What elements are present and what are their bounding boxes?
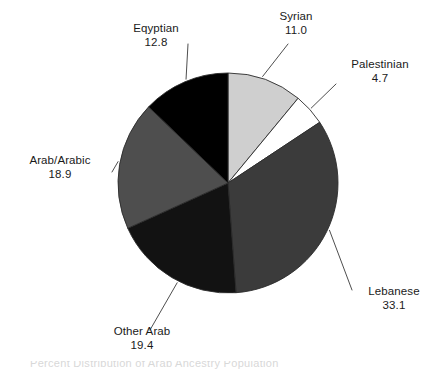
leader-line-other-arab bbox=[150, 283, 177, 330]
pie-label-lebanese-name: Lebanese bbox=[352, 285, 436, 299]
leader-line-syrian bbox=[263, 44, 288, 76]
pie-label-palestinian-name: Palestinian bbox=[330, 58, 430, 72]
pie-label-eqyptian: Eqyptian 12.8 bbox=[108, 22, 204, 49]
leader-line-palestinian bbox=[311, 84, 336, 108]
pie-label-arab-arabic-value: 18.9 bbox=[8, 168, 112, 182]
pie-label-other-arab-value: 19.4 bbox=[96, 339, 188, 353]
pie-label-palestinian: Palestinian 4.7 bbox=[330, 58, 430, 85]
pie-label-lebanese-value: 33.1 bbox=[352, 299, 436, 313]
pie-chart-figure: Eqyptian 12.8 Syrian 11.0 Palestinian 4.… bbox=[0, 0, 440, 371]
pie-label-eqyptian-value: 12.8 bbox=[108, 36, 204, 50]
pie-label-arab-arabic-name: Arab/Arabic bbox=[8, 154, 112, 168]
pie-label-syrian-name: Syrian bbox=[258, 10, 334, 24]
pie-slices-layer bbox=[118, 73, 338, 293]
pie-label-arab-arabic: Arab/Arabic 18.9 bbox=[8, 154, 112, 181]
pie-label-lebanese: Lebanese 33.1 bbox=[352, 285, 436, 312]
leader-line-eqyptian bbox=[186, 44, 188, 79]
pie-chart-graphic bbox=[0, 0, 440, 371]
leader-line-arab-arabic bbox=[112, 162, 118, 172]
leader-line-lebanese bbox=[330, 230, 352, 290]
pie-label-palestinian-value: 4.7 bbox=[330, 72, 430, 86]
pie-label-eqyptian-name: Eqyptian bbox=[108, 22, 204, 36]
pie-label-syrian-value: 11.0 bbox=[258, 24, 334, 38]
figure-caption-strip: Percent Distribution of Arab Ancestry Po… bbox=[0, 361, 440, 371]
pie-label-other-arab: Other Arab 19.4 bbox=[96, 325, 188, 352]
figure-caption: Percent Distribution of Arab Ancestry Po… bbox=[30, 361, 279, 369]
pie-label-other-arab-name: Other Arab bbox=[96, 325, 188, 339]
pie-label-syrian: Syrian 11.0 bbox=[258, 10, 334, 37]
